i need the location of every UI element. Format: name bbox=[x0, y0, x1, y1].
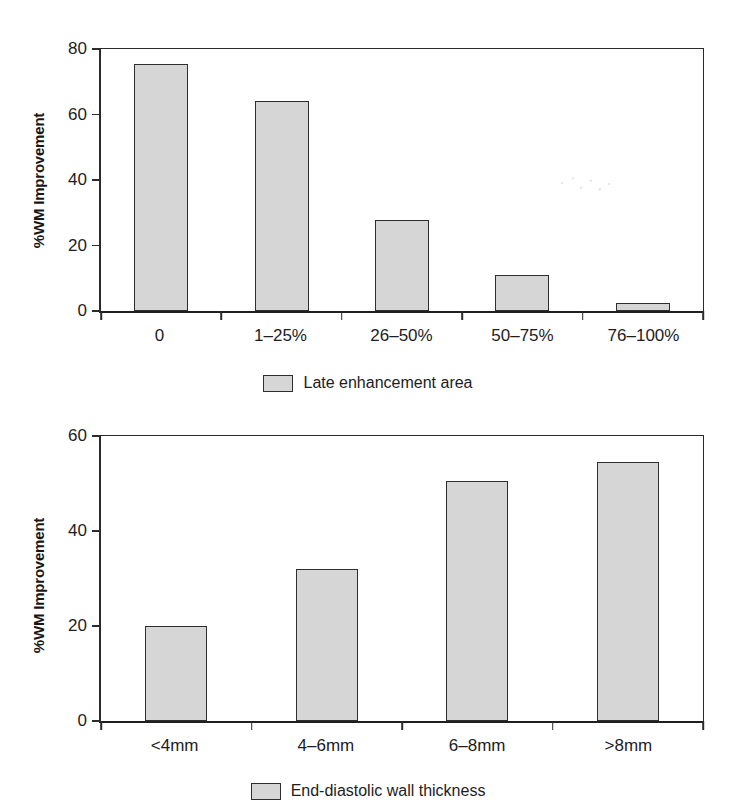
bar-slot bbox=[342, 49, 462, 311]
bar-group-bottom bbox=[101, 436, 703, 721]
plot-area-top: 020406080 bbox=[99, 48, 704, 313]
y-axis-tick: 20 bbox=[68, 616, 101, 636]
x-axis-tick-label: 0 bbox=[99, 326, 220, 346]
x-axis-labels-bottom: <4mm4–6mm6–8mm>8mm bbox=[99, 736, 704, 756]
x-axis-tick-mark bbox=[552, 721, 554, 730]
y-axis-tick-label: 60 bbox=[68, 426, 92, 446]
x-axis-labels-top: 01–25%26–50%50–75%76–100% bbox=[99, 326, 704, 346]
x-axis-tick-mark bbox=[100, 721, 102, 730]
bar-slot bbox=[101, 436, 252, 721]
y-axis-tick: 40 bbox=[68, 521, 101, 541]
y-axis-tick: 20 bbox=[68, 236, 101, 256]
y-axis-title-bottom: %WM Improvement bbox=[30, 501, 47, 671]
bar bbox=[255, 101, 309, 311]
y-axis-tick: 0 bbox=[78, 301, 101, 321]
x-axis-tick-mark bbox=[401, 721, 403, 730]
x-axis-tick-label: 6–8mm bbox=[402, 736, 553, 756]
y-axis-tick: 60 bbox=[68, 105, 101, 125]
bar bbox=[446, 481, 508, 721]
legend-label-wall-thickness: End-diastolic wall thickness bbox=[291, 782, 486, 800]
bar-group-top bbox=[101, 49, 703, 311]
y-axis-tick-label: 40 bbox=[68, 170, 92, 190]
x-axis-tick-mark bbox=[341, 311, 343, 320]
y-axis-title-top: %WM Improvement bbox=[30, 96, 47, 266]
legend-label-late-enhancement: Late enhancement area bbox=[303, 374, 472, 392]
y-axis-tick-mark bbox=[92, 435, 101, 437]
bar-slot bbox=[252, 436, 403, 721]
bar bbox=[495, 275, 549, 311]
x-axis-tick-mark bbox=[702, 721, 704, 730]
bar bbox=[616, 303, 670, 311]
bar bbox=[597, 462, 659, 721]
x-axis-tick-label: 26–50% bbox=[341, 326, 462, 346]
y-axis-tick-label: 40 bbox=[68, 521, 92, 541]
y-axis-tick-label: 0 bbox=[78, 301, 92, 321]
figure-wall-thickness: %WM Improvement 0204060 <4mm4–6mm6–8mm>8… bbox=[0, 405, 736, 807]
bar bbox=[134, 64, 188, 311]
x-axis-tick-label: >8mm bbox=[553, 736, 704, 756]
x-axis-tick-mark bbox=[221, 311, 223, 320]
x-axis-tick-mark bbox=[582, 311, 584, 320]
y-axis-tick-mark bbox=[92, 114, 101, 116]
y-axis-tick-mark bbox=[92, 179, 101, 181]
y-axis-tick: 0 bbox=[78, 711, 101, 731]
x-axis-tick-mark bbox=[100, 311, 102, 320]
x-axis-tick-mark bbox=[251, 721, 253, 730]
y-axis-tick-mark bbox=[92, 530, 101, 532]
x-axis-ticks-bottom bbox=[101, 721, 703, 730]
y-axis-tick-mark bbox=[92, 625, 101, 627]
legend-top: Late enhancement area bbox=[0, 372, 736, 394]
x-axis-tick-mark bbox=[702, 311, 704, 320]
bar bbox=[296, 569, 358, 721]
y-axis-tick: 80 bbox=[68, 39, 101, 59]
bar-slot bbox=[402, 436, 553, 721]
x-axis-tick-label: 50–75% bbox=[462, 326, 583, 346]
legend-swatch-icon bbox=[263, 375, 293, 392]
x-axis-ticks-top bbox=[101, 311, 703, 320]
figure-late-enhancement: %WM Improvement 020406080 01–25%26–50%50… bbox=[0, 0, 736, 405]
x-axis-tick-label: 76–100% bbox=[583, 326, 704, 346]
y-axis-tick-label: 0 bbox=[78, 711, 92, 731]
x-axis-tick-label: 1–25% bbox=[220, 326, 341, 346]
y-axis-tick: 60 bbox=[68, 426, 101, 446]
y-axis-tick-mark bbox=[92, 48, 101, 50]
plot-area-bottom: 0204060 bbox=[99, 435, 704, 723]
y-axis-tick: 40 bbox=[68, 170, 101, 190]
legend-swatch-icon bbox=[251, 783, 281, 800]
bar-slot bbox=[101, 49, 221, 311]
x-axis-tick-mark bbox=[461, 311, 463, 320]
y-axis-tick-label: 20 bbox=[68, 236, 92, 256]
bar bbox=[145, 626, 207, 721]
bar-slot bbox=[583, 49, 703, 311]
bar-slot bbox=[221, 49, 341, 311]
bar bbox=[375, 220, 429, 311]
x-axis-tick-label: 4–6mm bbox=[250, 736, 401, 756]
x-axis-tick-label: <4mm bbox=[99, 736, 250, 756]
legend-bottom: End-diastolic wall thickness bbox=[0, 780, 736, 802]
y-axis-tick-label: 60 bbox=[68, 105, 92, 125]
y-axis-tick-label: 80 bbox=[68, 39, 92, 59]
y-axis-tick-mark bbox=[92, 245, 101, 247]
bar-slot bbox=[553, 436, 704, 721]
y-axis-tick-label: 20 bbox=[68, 616, 92, 636]
bar-slot bbox=[462, 49, 582, 311]
